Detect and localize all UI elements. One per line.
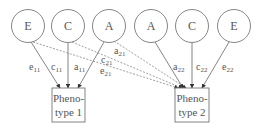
factor-e2: E — [218, 10, 251, 43]
factor-c2: C — [176, 10, 209, 43]
factor-a1-label: A — [105, 19, 114, 33]
label-a21: a21 — [114, 45, 126, 58]
label-c22: c22 — [196, 61, 208, 74]
phenotype-2-label-line2: type 2 — [178, 106, 205, 118]
factor-a2-label: A — [147, 19, 156, 33]
label-e11: e11 — [29, 61, 41, 74]
label-c11: c11 — [51, 61, 63, 74]
label-a22: a22 — [173, 61, 185, 74]
path-e11 — [31, 42, 60, 88]
phenotype-2: Pheno- type 2 — [175, 88, 209, 122]
factor-e1: E — [12, 10, 45, 43]
latent-factors: E C A A C E — [12, 10, 251, 43]
phenotype-2-label-line1: Pheno- — [176, 92, 208, 104]
ace-path-diagram: E C A A C E Pheno- type 1 Pheno- type — [0, 0, 262, 129]
factor-a2: A — [135, 10, 168, 43]
factor-e1-label: E — [24, 19, 31, 33]
phenotype-1-label-line2: type 1 — [55, 106, 82, 118]
path-a22 — [155, 42, 183, 88]
factor-c1-label: C — [64, 19, 72, 33]
label-a11: a11 — [74, 61, 86, 74]
label-e22: e22 — [222, 61, 234, 74]
phenotype-1-label-line1: Pheno- — [53, 92, 85, 104]
phenotype-1: Pheno- type 1 — [52, 88, 85, 122]
factor-e2-label: E — [230, 19, 237, 33]
path-c21 — [72, 42, 182, 88]
factor-a1: A — [93, 10, 126, 43]
factor-c2-label: C — [188, 19, 196, 33]
factor-c1: C — [52, 10, 85, 43]
